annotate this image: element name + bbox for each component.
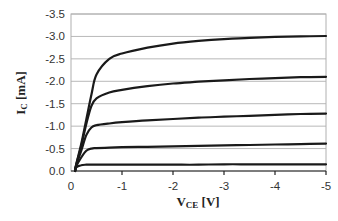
- y-tick-label: -3.5: [45, 8, 65, 20]
- series-line-3: [75, 114, 326, 171]
- y-axis-ticks: 0.0-0.5-1.0-1.5-2.0-2.5-3.0-3.5: [45, 8, 65, 177]
- y-tick-label: 0.0: [49, 165, 65, 177]
- y-axis-title: IC [mA]: [13, 71, 29, 115]
- x-tick-label: -4: [270, 180, 281, 192]
- x-axis-ticks: 0-1-2-3-4-5: [68, 171, 331, 192]
- x-tick-label: -1: [117, 180, 127, 192]
- x-tick-label: -5: [321, 180, 331, 192]
- y-tick-label: -2.5: [45, 53, 65, 65]
- y-tick-label: -1.0: [45, 120, 65, 132]
- series-line-1: [75, 164, 326, 171]
- x-tick-label: -3: [219, 180, 229, 192]
- y-tick-label: -3.0: [45, 30, 65, 42]
- y-tick-label: -2.0: [45, 75, 65, 87]
- series-line-2: [75, 144, 326, 171]
- x-tick-label: 0: [68, 180, 74, 192]
- x-tick-label: -2: [168, 180, 178, 192]
- x-axis-title: VCE [V]: [176, 194, 219, 210]
- y-tick-label: -1.5: [45, 98, 65, 110]
- output-characteristics-chart: 0-1-2-3-4-5 0.0-0.5-1.0-1.5-2.0-2.5-3.0-…: [0, 0, 338, 221]
- y-tick-label: -0.5: [45, 143, 65, 155]
